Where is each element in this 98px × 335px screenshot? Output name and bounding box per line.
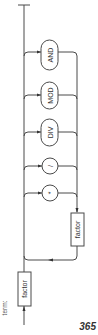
- operator-mod-label: MOD: [47, 87, 54, 103]
- syntax-diagram: AND MOD DIV / * factor factor term: 365: [0, 0, 98, 335]
- join-div: [58, 132, 77, 136]
- arrow-icon: [37, 131, 41, 134]
- arrow-icon: [38, 192, 42, 195]
- join-and: [58, 52, 77, 56]
- arrow-icon: [48, 259, 53, 262]
- entry-factor-label: factor: [21, 280, 28, 298]
- operator-and-label: AND: [47, 48, 54, 63]
- join-star: [58, 193, 77, 197]
- arrow-icon: [23, 306, 26, 311]
- loop-back: [24, 246, 77, 260]
- arrow-icon: [38, 165, 42, 168]
- join-slash: [58, 166, 77, 170]
- arrow-icon: [37, 51, 41, 54]
- loop-factor-label: factor: [74, 220, 81, 238]
- rule-name-label: term:: [1, 300, 8, 315]
- operator-slash-label: /: [47, 165, 54, 167]
- page-number: 365: [79, 321, 96, 332]
- operator-div-label: DIV: [47, 126, 54, 138]
- arrow-icon: [37, 94, 41, 97]
- join-mod: [58, 95, 77, 99]
- arrow-icon: [76, 208, 79, 213]
- operator-star-label: *: [47, 191, 54, 194]
